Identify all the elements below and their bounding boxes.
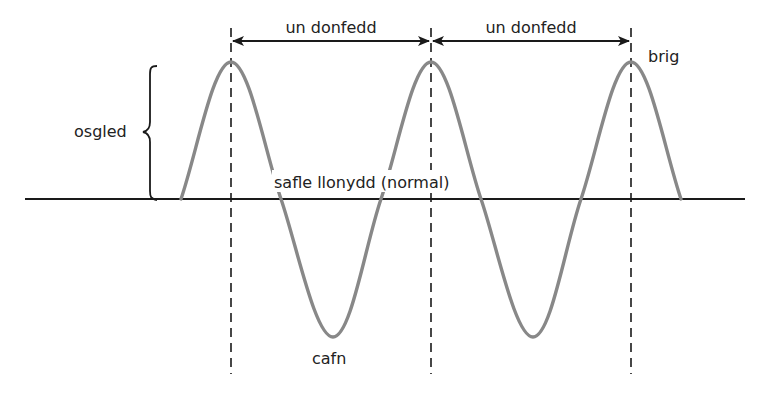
wavelength-label-1: un donfedd [285,18,376,37]
wavelength-label-2: un donfedd [485,18,576,37]
trough-label: cafn [312,349,346,368]
crest-label: brig [648,47,679,66]
amplitude-brace [143,66,157,200]
rest-position-label: safle llonydd (normal) [274,173,449,192]
crest-reference-lines [231,28,631,374]
amplitude-label: osgled [74,122,127,141]
wave-diagram: un donfedd un donfedd brig osgled safle … [0,0,759,397]
